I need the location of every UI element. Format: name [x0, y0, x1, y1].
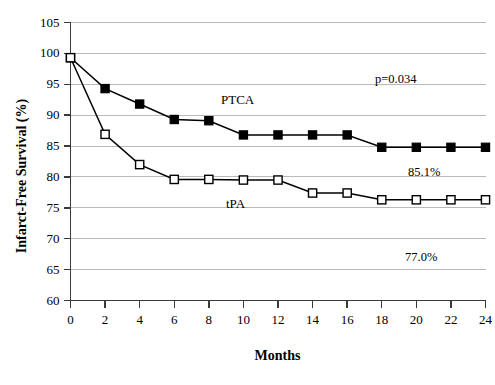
data-point-marker [343, 189, 351, 197]
data-point-marker [308, 189, 316, 197]
data-point-marker [378, 196, 386, 204]
chart-canvas [0, 0, 495, 385]
y-tick-label: 100 [26, 46, 60, 59]
data-point-marker [136, 100, 144, 108]
x-tick-label: 4 [125, 313, 155, 326]
x-tick-label: 8 [194, 313, 224, 326]
y-tick-label: 70 [26, 232, 60, 245]
x-tick-label: 24 [471, 313, 495, 326]
data-point-marker [239, 131, 247, 139]
y-tick-label: 85 [26, 139, 60, 152]
y-tick-label: 90 [26, 108, 60, 121]
x-tick-label: 20 [401, 313, 431, 326]
data-point-marker [481, 196, 489, 204]
data-point-marker [274, 131, 282, 139]
y-tick-label: 75 [26, 201, 60, 214]
data-point-marker [205, 175, 213, 183]
survival-chart: Infarct-Free Survival (%) Months 1051009… [0, 0, 495, 385]
data-point-marker [136, 160, 144, 168]
data-point-marker [205, 117, 213, 125]
p-value-annotation: p=0.034 [375, 72, 416, 87]
data-point-marker [343, 131, 351, 139]
data-point-marker [447, 196, 455, 204]
series-label-tpa: tPA [226, 196, 245, 212]
data-point-marker [274, 176, 282, 184]
y-tick-label: 95 [26, 77, 60, 90]
y-tick-label: 80 [26, 170, 60, 183]
data-point-marker [66, 54, 74, 62]
x-tick-label: 2 [90, 313, 120, 326]
x-tick-label: 12 [263, 313, 293, 326]
x-tick-label: 16 [332, 313, 362, 326]
tpa-final-value-annotation: 77.0% [405, 250, 437, 265]
x-tick-label: 0 [56, 313, 86, 326]
x-tick-label: 22 [436, 313, 466, 326]
data-point-marker [170, 175, 178, 183]
data-point-marker [101, 85, 109, 93]
y-tick-label: 65 [26, 263, 60, 276]
series-label-ptca: PTCA [221, 92, 254, 108]
data-point-marker [447, 143, 455, 151]
y-tick-label: 60 [26, 294, 60, 307]
y-tick-label: 105 [26, 16, 60, 29]
data-point-marker [170, 115, 178, 123]
x-tick-label: 6 [159, 313, 189, 326]
data-point-marker [481, 143, 489, 151]
data-point-marker [378, 143, 386, 151]
data-point-marker [412, 143, 420, 151]
data-point-marker [412, 196, 420, 204]
data-point-marker [308, 131, 316, 139]
data-point-marker [101, 130, 109, 138]
x-axis-title: Months [70, 348, 485, 364]
x-tick-label: 10 [228, 313, 258, 326]
ptca-final-value-annotation: 85.1% [408, 165, 440, 180]
data-point-marker [239, 176, 247, 184]
x-tick-label: 18 [367, 313, 397, 326]
x-tick-label: 14 [298, 313, 328, 326]
